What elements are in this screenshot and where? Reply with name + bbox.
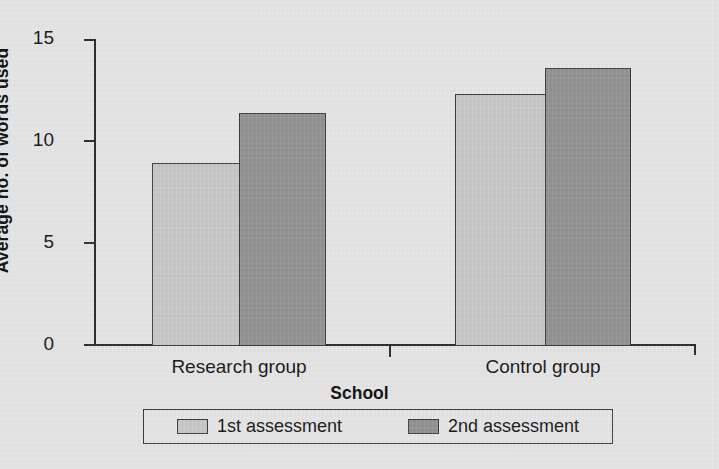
x-axis-end-tick	[694, 344, 696, 355]
legend-swatch-2nd-assessment	[408, 419, 439, 434]
y-tick-label-5: 5	[14, 231, 54, 253]
bar-chart-figure: Average no. of words used 15 10 5 0 Rese…	[0, 0, 719, 469]
legend-label-1st-assessment: 1st assessment	[217, 416, 342, 437]
x-category-label-research-group: Research group	[139, 356, 339, 378]
y-tick-label-15: 15	[14, 27, 54, 49]
y-axis-line	[94, 39, 96, 346]
bar-research-group-1st-assessment	[152, 163, 240, 346]
bar-research-group-2nd-assessment	[239, 113, 326, 346]
legend-swatch-1st-assessment	[177, 419, 208, 434]
bar-control-group-1st-assessment	[455, 94, 546, 346]
x-axis-title: School	[0, 383, 719, 404]
legend-label-2nd-assessment: 2nd assessment	[448, 416, 579, 437]
bar-control-group-2nd-assessment	[545, 68, 631, 346]
y-tick-label-10: 10	[14, 129, 54, 151]
y-tick-label-0: 0	[14, 333, 54, 355]
chart-legend: 1st assessment 2nd assessment	[143, 409, 613, 444]
x-category-label-control-group: Control group	[443, 356, 643, 378]
legend-entry-2nd-assessment: 2nd assessment	[408, 416, 579, 437]
x-tick-mark-mid	[389, 346, 391, 357]
legend-entry-1st-assessment: 1st assessment	[177, 416, 342, 437]
y-axis-title: Average no. of words used	[0, 0, 13, 331]
